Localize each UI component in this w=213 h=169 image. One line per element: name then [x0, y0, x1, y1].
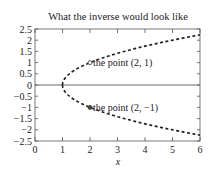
x-tick-label: 0: [33, 144, 38, 155]
annotations: the point (2, 1)the point (2, −1): [88, 57, 158, 114]
x-tick-label: 6: [198, 144, 203, 155]
y-tick-label: −1.5: [14, 113, 32, 124]
point-marker: [88, 61, 92, 65]
y-tick-label: −2.5: [14, 136, 32, 147]
x-tick-label: 1: [60, 144, 65, 155]
point-marker: [88, 105, 92, 109]
x-tick-label: 4: [143, 144, 148, 155]
y-tick-label: 2: [27, 35, 32, 46]
chart-title: What the inverse would look like: [48, 11, 188, 22]
y-tick-label: 0: [27, 80, 32, 91]
y-tick-label: −0.5: [14, 91, 32, 102]
x-tick-label: 5: [170, 144, 175, 155]
point-label: the point (2, −1): [93, 102, 158, 114]
x-axis-label: x: [115, 156, 121, 167]
x-tick-label: 3: [115, 144, 120, 155]
y-tick-label: 1: [27, 57, 32, 68]
point-label: the point (2, 1): [93, 57, 152, 69]
x-axis: 0123456: [33, 29, 203, 155]
y-tick-label: −2: [21, 124, 32, 135]
y-tick-label: 0.5: [20, 68, 33, 79]
chart: What the inverse would look like 0123456…: [0, 0, 213, 169]
y-tick-label: −1: [21, 102, 32, 113]
x-tick-label: 2: [88, 144, 93, 155]
y-tick-label: 2.5: [20, 24, 33, 35]
y-tick-label: 1.5: [20, 46, 33, 57]
